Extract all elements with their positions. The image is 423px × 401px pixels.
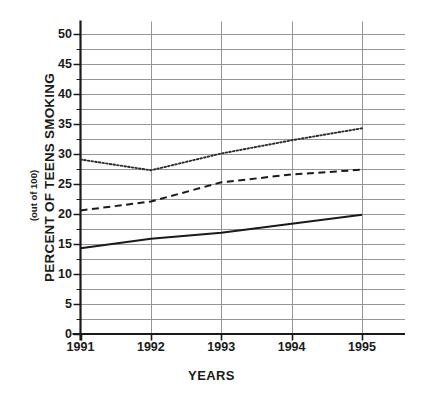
- vertical-grid-lines: [152, 22, 363, 334]
- chart-container: PERCENT OF TEENS SMOKING (out of 100) 05…: [0, 0, 423, 401]
- y-axis-ticks: [74, 35, 81, 335]
- grid-lines: [81, 35, 406, 320]
- plot-area: [0, 0, 423, 401]
